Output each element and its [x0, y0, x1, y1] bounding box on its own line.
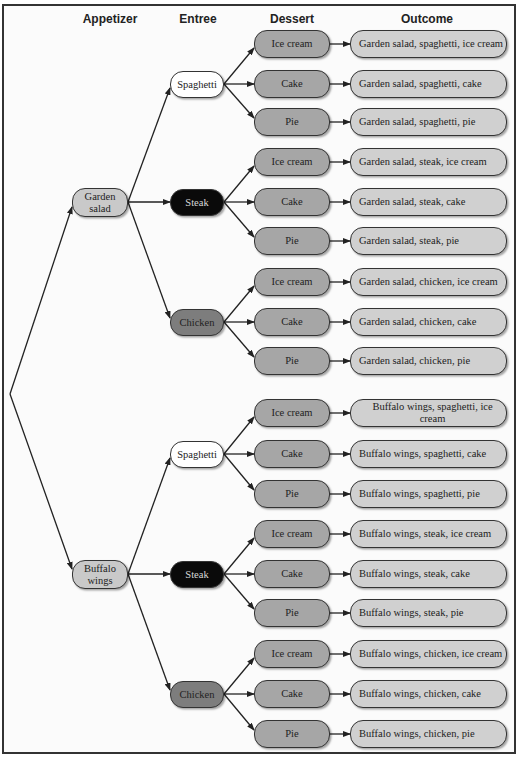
- dessert-node-ice-cream: Ice cream: [254, 520, 330, 548]
- dessert-node-cake: Cake: [254, 440, 330, 468]
- entree-node-spaghetti: Spaghetti: [170, 441, 224, 468]
- dessert-node-ice-cream: Ice cream: [254, 30, 330, 58]
- appetizer-node-buffalo-wings: Buffalo wings: [72, 560, 128, 589]
- outcome-node: Garden salad, spaghetti, cake: [350, 70, 507, 98]
- outcome-node: Buffalo wings, chicken, ice cream: [350, 640, 507, 668]
- dessert-node-pie: Pie: [254, 480, 330, 508]
- appetizer-node-garden-salad: Garden salad: [72, 188, 128, 217]
- header-entree: Entree: [179, 12, 216, 26]
- dessert-node-ice-cream: Ice cream: [254, 399, 330, 427]
- dessert-node-pie: Pie: [254, 720, 330, 748]
- dessert-node-pie: Pie: [254, 227, 330, 255]
- appetizer-label-line2: salad: [89, 203, 111, 215]
- entree-node-spaghetti: Spaghetti: [170, 71, 224, 98]
- entree-node-chicken: Chicken: [170, 309, 224, 336]
- dessert-node-cake: Cake: [254, 188, 330, 216]
- outcome-node: Garden salad, chicken, pie: [350, 347, 507, 375]
- outcome-node: Buffalo wings, spaghetti, ice cream: [350, 399, 507, 427]
- appetizer-label-line1: Garden: [85, 191, 116, 203]
- outcome-node: Garden salad, chicken, ice cream: [350, 268, 507, 296]
- outcome-node: Buffalo wings, chicken, pie: [350, 720, 507, 748]
- appetizer-label-line1: Buffalo: [84, 563, 116, 575]
- dessert-node-ice-cream: Ice cream: [254, 640, 330, 668]
- dessert-node-cake: Cake: [254, 70, 330, 98]
- header-outcome: Outcome: [401, 12, 453, 26]
- header-dessert: Dessert: [270, 12, 314, 26]
- outcome-node: Buffalo wings, spaghetti, pie: [350, 480, 507, 508]
- outcome-node: Buffalo wings, spaghetti, cake: [350, 440, 507, 468]
- dessert-node-pie: Pie: [254, 108, 330, 136]
- dessert-node-cake: Cake: [254, 308, 330, 336]
- outcome-node: Buffalo wings, steak, ice cream: [350, 520, 507, 548]
- outcome-node: Buffalo wings, chicken, cake: [350, 680, 507, 708]
- dessert-node-ice-cream: Ice cream: [254, 268, 330, 296]
- outcome-node: Garden salad, spaghetti, ice cream: [350, 30, 507, 58]
- entree-node-chicken: Chicken: [170, 681, 224, 708]
- outcome-node: Garden salad, steak, pie: [350, 227, 507, 255]
- outcome-node: Buffalo wings, steak, cake: [350, 560, 507, 588]
- entree-node-steak: Steak: [170, 189, 224, 216]
- outcome-node: Garden salad, spaghetti, pie: [350, 108, 507, 136]
- appetizer-label-line2: wings: [87, 575, 112, 587]
- outcome-node: Garden salad, steak, ice cream: [350, 148, 507, 176]
- dessert-node-cake: Cake: [254, 680, 330, 708]
- header-appetizer: Appetizer: [83, 12, 138, 26]
- entree-node-steak: Steak: [170, 561, 224, 588]
- outcome-node: Garden salad, steak, cake: [350, 188, 507, 216]
- dessert-node-cake: Cake: [254, 560, 330, 588]
- dessert-node-pie: Pie: [254, 347, 330, 375]
- dessert-node-pie: Pie: [254, 599, 330, 627]
- outcome-node: Garden salad, chicken, cake: [350, 308, 507, 336]
- outcome-node: Buffalo wings, steak, pie: [350, 599, 507, 627]
- dessert-node-ice-cream: Ice cream: [254, 148, 330, 176]
